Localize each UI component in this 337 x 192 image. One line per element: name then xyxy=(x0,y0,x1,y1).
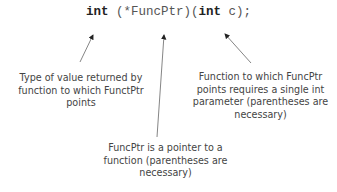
arrow-to-pointer xyxy=(157,35,164,137)
arrow-to-return-type xyxy=(80,35,93,62)
pointer-annotation: FuncPtr is a pointer to a function (pare… xyxy=(98,142,233,180)
arrow-to-parameter xyxy=(225,34,251,63)
return-type-annotation: Type of value returned by function to wh… xyxy=(10,72,152,110)
parameter-annotation: Function to which FuncPtr points require… xyxy=(188,71,333,121)
